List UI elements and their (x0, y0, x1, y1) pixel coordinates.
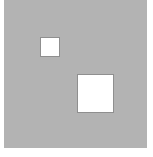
large-white-square (77, 74, 114, 113)
small-white-square (40, 37, 60, 57)
image-canvas (0, 0, 153, 157)
gray-field (4, 0, 147, 148)
